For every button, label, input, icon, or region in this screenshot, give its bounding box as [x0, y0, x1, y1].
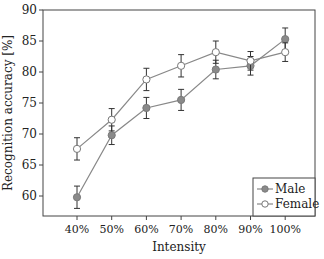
open-circle-marker-icon [212, 49, 219, 56]
line-chart: 6065707580859040%50%60%70%80%90%100% Mal… [0, 0, 324, 259]
open-circle-marker-icon [178, 62, 185, 69]
x-tick-label: 40% [65, 223, 89, 236]
open-circle-marker-icon [143, 76, 150, 83]
x-tick-label: 90% [238, 223, 262, 236]
y-tick-label: 60 [22, 189, 37, 203]
filled-circle-marker-icon [143, 104, 150, 111]
x-tick-label: 100% [269, 223, 300, 236]
filled-circle-marker-icon [282, 36, 289, 43]
y-axis-label: Recognition accuracy [%] [1, 35, 15, 191]
y-tick-label: 75 [22, 96, 37, 110]
y-tick-label: 85 [22, 34, 37, 48]
filled-circle-marker-icon [262, 186, 268, 192]
y-tick-label: 65 [22, 158, 37, 172]
y-tick-label: 70 [22, 127, 37, 141]
legend: MaleFemale [253, 178, 319, 216]
legend-label: Male [275, 182, 305, 196]
y-tick-label: 90 [22, 3, 37, 17]
open-circle-marker-icon [262, 201, 268, 207]
open-circle-marker-icon [282, 49, 289, 56]
x-tick-label: 80% [204, 223, 228, 236]
filled-circle-marker-icon [108, 132, 115, 139]
filled-circle-marker-icon [73, 194, 80, 201]
legend-label: Female [275, 197, 319, 211]
open-circle-marker-icon [108, 116, 115, 123]
open-circle-marker-icon [247, 57, 254, 64]
y-tick-label: 80 [22, 65, 37, 79]
x-axis-label: Intensity [152, 240, 206, 254]
x-tick-label: 70% [169, 223, 193, 236]
open-circle-marker-icon [73, 145, 80, 152]
filled-circle-marker-icon [178, 96, 185, 103]
filled-circle-marker-icon [212, 66, 219, 73]
x-tick-label: 50% [99, 223, 123, 236]
x-tick-label: 60% [134, 223, 158, 236]
